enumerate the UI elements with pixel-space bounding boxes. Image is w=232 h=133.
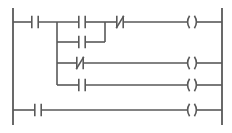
rung-1-output-coil-icon-left-arc: [188, 16, 190, 28]
rung-1-output-coil-icon-right-arc: [194, 16, 196, 28]
ladder-diagram-canvas: [0, 0, 232, 133]
rung-4-output-coil-icon-left-arc: [188, 79, 190, 91]
rung-3-output-coil-icon-right-arc: [194, 57, 196, 69]
ladder-elements-layer: [13, 8, 222, 125]
rung-4-output-coil-icon-right-arc: [194, 79, 196, 91]
rung-3-output-coil-icon-left-arc: [188, 57, 190, 69]
rung-5-output-coil-icon-left-arc: [188, 104, 190, 116]
ladder-logic-diagram: [0, 0, 232, 133]
rung-5-output-coil-icon-right-arc: [194, 104, 196, 116]
